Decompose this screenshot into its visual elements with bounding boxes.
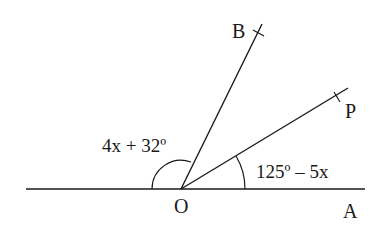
angle-arc-right — [236, 156, 245, 189]
label-angle-left: 4x + 32º — [102, 135, 166, 156]
label-point-b: B — [232, 20, 245, 42]
label-point-p: P — [345, 100, 356, 122]
label-point-o: O — [174, 195, 188, 217]
angle-diagram: B P O A 4x + 32º 125º – 5x — [0, 0, 391, 239]
label-point-a: A — [343, 200, 358, 222]
angle-arc-left — [152, 160, 191, 189]
label-angle-right: 125º – 5x — [256, 161, 329, 182]
